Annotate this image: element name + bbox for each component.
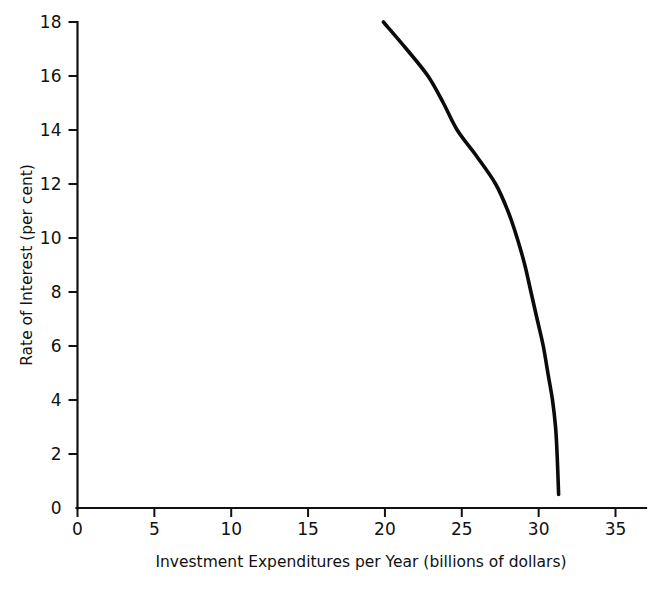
- x-tick-label: 15: [297, 519, 319, 539]
- y-tick-label: 18: [40, 12, 62, 32]
- y-tick-label: 2: [51, 444, 62, 464]
- chart-figure: 024681012141618 05101520253035 Investmen…: [0, 0, 665, 594]
- x-tick-label: 5: [149, 519, 160, 539]
- x-tick-label: 35: [605, 519, 627, 539]
- y-tick-label: 12: [40, 174, 62, 194]
- chart-canvas: 024681012141618 05101520253035 Investmen…: [0, 0, 665, 594]
- y-tick-label: 14: [40, 120, 62, 140]
- y-axis-tick-labels: 024681012141618: [40, 12, 62, 518]
- x-tick-label: 10: [220, 519, 242, 539]
- y-tick-label: 0: [51, 498, 62, 518]
- data-series-group: [383, 22, 558, 495]
- x-axis-ticks: [78, 508, 616, 517]
- data-curve: [383, 22, 558, 495]
- x-axis-title: Investment Expenditures per Year (billio…: [155, 553, 566, 571]
- y-tick-label: 16: [40, 66, 62, 86]
- y-tick-label: 10: [40, 228, 62, 248]
- y-tick-label: 4: [51, 390, 62, 410]
- y-tick-label: 8: [51, 282, 62, 302]
- x-tick-label: 0: [72, 519, 83, 539]
- x-tick-label: 20: [374, 519, 396, 539]
- x-axis: 05101520253035: [72, 508, 646, 539]
- x-axis-tick-labels: 05101520253035: [72, 519, 626, 539]
- y-axis: 024681012141618: [40, 12, 78, 518]
- y-tick-label: 6: [51, 336, 62, 356]
- x-tick-label: 30: [528, 519, 550, 539]
- y-axis-title: Rate of Interest (per cent): [18, 164, 36, 366]
- x-tick-label: 25: [451, 519, 473, 539]
- y-axis-ticks: [69, 22, 78, 454]
